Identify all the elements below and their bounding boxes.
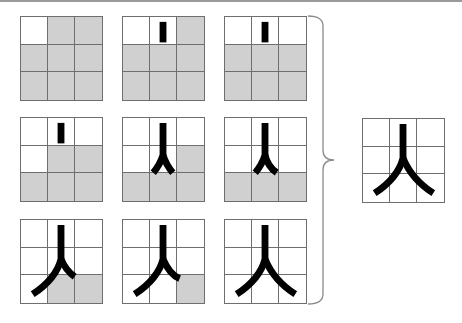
grid-cell	[48, 220, 75, 248]
grid-cell	[150, 248, 177, 276]
grid-cell	[21, 146, 48, 174]
grid-cell-shaded	[48, 17, 75, 45]
grid-cell-shaded	[150, 173, 177, 201]
grid-cell	[363, 147, 390, 175]
grid-cell	[225, 118, 252, 146]
grid-cell-shaded	[279, 173, 306, 201]
right-brace-icon	[306, 14, 340, 306]
grid-cell	[123, 146, 150, 174]
grid-cell	[279, 275, 306, 303]
grid-cell	[225, 248, 252, 276]
grid-cell-shaded	[75, 17, 102, 45]
grid-cell-shaded	[279, 45, 306, 73]
grid-cell	[252, 118, 279, 146]
grid-cell	[123, 248, 150, 276]
step-grid-2	[122, 16, 205, 101]
grid-cell	[390, 174, 417, 202]
grid-cell	[417, 119, 444, 147]
grid-cell	[279, 17, 306, 45]
grid-cell	[225, 220, 252, 248]
grid-cell	[150, 146, 177, 174]
grid-cell	[48, 118, 75, 146]
grid-cell-shaded	[177, 275, 204, 303]
grid-cell	[279, 146, 306, 174]
grid-cell	[225, 17, 252, 45]
grid-cell-shaded	[177, 17, 204, 45]
grid-cell-shaded	[48, 146, 75, 174]
grid-cell	[252, 146, 279, 174]
step-grid-7	[20, 219, 103, 304]
grid-cell-shaded	[123, 72, 150, 100]
grid-cell	[150, 17, 177, 45]
grid-cell	[75, 248, 102, 276]
grid-cell	[363, 119, 390, 147]
grid-cell-shaded	[75, 173, 102, 201]
grid-cell	[75, 118, 102, 146]
grid-cell	[48, 248, 75, 276]
grid-cell-shaded	[75, 146, 102, 174]
grid-cell-shaded	[48, 45, 75, 73]
grid-cell	[252, 220, 279, 248]
grid-cell	[225, 146, 252, 174]
step-grid-8	[122, 219, 205, 304]
grid-cell	[252, 275, 279, 303]
grid-cell-shaded	[252, 173, 279, 201]
grid-cell	[123, 17, 150, 45]
grid-cell	[177, 248, 204, 276]
grid-cell-shaded	[48, 173, 75, 201]
grid-cell	[279, 118, 306, 146]
grid-cell-shaded	[48, 275, 75, 303]
grid-cell	[279, 220, 306, 248]
top-border	[0, 0, 462, 2]
step-grid-5	[122, 117, 205, 202]
grid-cell-shaded	[225, 45, 252, 73]
grid-cell-shaded	[150, 72, 177, 100]
grid-cell-shaded	[21, 72, 48, 100]
grid-cell-shaded	[177, 72, 204, 100]
grid-cell-shaded	[279, 72, 306, 100]
grid-cell-shaded	[75, 45, 102, 73]
grid-cell-shaded	[123, 173, 150, 201]
grid-cell	[150, 220, 177, 248]
grid-cell-shaded	[225, 173, 252, 201]
grid-cell	[123, 118, 150, 146]
grid-cell-shaded	[21, 173, 48, 201]
grid-cell-shaded	[177, 173, 204, 201]
grid-cell	[177, 220, 204, 248]
grid-cell	[123, 275, 150, 303]
grid-cell-shaded	[252, 45, 279, 73]
grid-cell-shaded	[75, 275, 102, 303]
grid-cell	[225, 275, 252, 303]
grid-cell-shaded	[75, 72, 102, 100]
grid-cell-shaded	[48, 72, 75, 100]
grid-cell-shaded	[252, 72, 279, 100]
result-grid	[362, 118, 445, 203]
grid-cell	[252, 248, 279, 276]
grid-cell	[390, 119, 417, 147]
grid-cell	[279, 248, 306, 276]
step-grid-3	[224, 16, 307, 101]
grid-cell	[21, 17, 48, 45]
grid-cell	[252, 17, 279, 45]
grid-cell	[150, 275, 177, 303]
grid-cell	[123, 220, 150, 248]
grid-cell-shaded	[150, 45, 177, 73]
grid-cell	[21, 220, 48, 248]
grid-cell-shaded	[21, 45, 48, 73]
step-grid-1	[20, 16, 103, 101]
grid-cell	[177, 118, 204, 146]
grid-cell-shaded	[177, 45, 204, 73]
grid-cell	[21, 275, 48, 303]
grid-cell	[363, 174, 390, 202]
grid-cell	[75, 220, 102, 248]
grid-cell	[21, 118, 48, 146]
grid-cell	[21, 248, 48, 276]
grid-cell-shaded	[225, 72, 252, 100]
grid-cell-shaded	[177, 146, 204, 174]
step-grid-4	[20, 117, 103, 202]
grid-cell	[417, 174, 444, 202]
grid-cell	[390, 147, 417, 175]
step-grid-6	[224, 117, 307, 202]
grid-cell	[417, 147, 444, 175]
grid-cell	[150, 118, 177, 146]
